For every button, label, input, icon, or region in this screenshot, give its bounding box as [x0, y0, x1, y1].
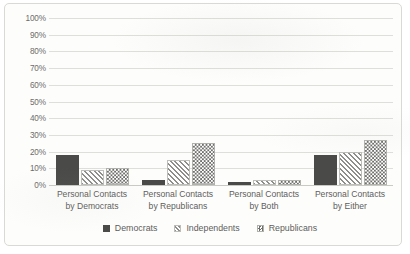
bar[interactable] — [81, 170, 104, 185]
bar[interactable] — [142, 180, 165, 185]
y-axis-tick-label: 70% — [30, 64, 46, 73]
legend-item[interactable]: Independents — [174, 223, 239, 233]
legend-item[interactable]: Democrats — [103, 223, 158, 233]
bar[interactable] — [314, 155, 337, 185]
x-axis-category-label-line: by Both — [221, 201, 307, 213]
legend-swatch-icon — [257, 225, 264, 232]
bar-group — [49, 18, 135, 185]
chart-legend: DemocratsIndependentsRepublicans — [5, 223, 410, 233]
legend-item-label: Independents — [186, 223, 239, 233]
bar-group — [307, 18, 393, 185]
legend-swatch-icon — [174, 225, 181, 232]
y-axis-tick-label: 10% — [30, 164, 46, 173]
legend-item-label: Democrats — [115, 223, 158, 233]
bar-group — [135, 18, 221, 185]
bar[interactable] — [106, 168, 129, 185]
x-axis: Personal Contactsby DemocratsPersonal Co… — [49, 189, 393, 221]
x-axis-category-label-line: Personal Contacts — [49, 189, 135, 201]
y-axis-tick-label: 90% — [30, 30, 46, 39]
y-axis-tick-label: 40% — [30, 114, 46, 123]
y-axis-tick-label: 80% — [30, 47, 46, 56]
bar[interactable] — [167, 160, 190, 185]
x-axis-category-label-line: by Democrats — [49, 201, 135, 213]
bar[interactable] — [253, 180, 276, 185]
x-axis-category-label-line: Personal Contacts — [135, 189, 221, 201]
y-axis-tick-label: 30% — [30, 130, 46, 139]
bar-group — [221, 18, 307, 185]
x-axis-category-label: Personal Contactsby Either — [307, 189, 393, 212]
y-axis-tick-label: 100% — [25, 14, 46, 23]
y-axis-tick-label: 0% — [34, 181, 46, 190]
x-axis-category-label: Personal Contactsby Republicans — [135, 189, 221, 212]
bar[interactable] — [339, 152, 362, 185]
bar[interactable] — [56, 155, 79, 185]
y-axis-tick-label: 50% — [30, 97, 46, 106]
x-axis-category-label-line: by Either — [307, 201, 393, 213]
x-axis-category-label-line: by Republicans — [135, 201, 221, 213]
bar[interactable] — [192, 143, 215, 185]
x-axis-category-label-line: Personal Contacts — [307, 189, 393, 201]
legend-swatch-icon — [103, 225, 110, 232]
y-axis-tick-label: 20% — [30, 147, 46, 156]
y-axis: 0%10%20%30%40%50%60%70%80%90%100% — [13, 18, 46, 185]
legend-item-label: Republicans — [269, 223, 317, 233]
bar[interactable] — [364, 140, 387, 185]
bars-layer — [49, 18, 393, 185]
x-axis-category-label: Personal Contactsby Democrats — [49, 189, 135, 212]
bar[interactable] — [278, 180, 301, 185]
y-axis-tick-label: 60% — [30, 80, 46, 89]
legend-item[interactable]: Republicans — [257, 223, 317, 233]
bar[interactable] — [228, 182, 251, 185]
chart-container: 0%10%20%30%40%50%60%70%80%90%100% Person… — [4, 3, 402, 246]
x-axis-category-label-line: Personal Contacts — [221, 189, 307, 201]
gridline-0% — [49, 185, 393, 186]
x-axis-category-label: Personal Contactsby Both — [221, 189, 307, 212]
